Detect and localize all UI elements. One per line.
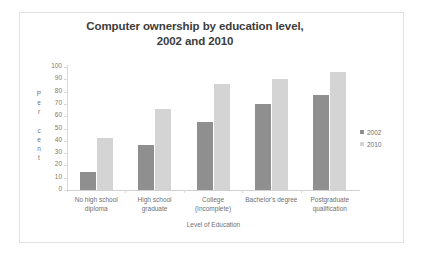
bar-group	[313, 67, 346, 190]
legend-swatch-icon	[360, 130, 364, 134]
y-axis-tick-label: 100	[51, 62, 62, 69]
bar-group	[255, 67, 288, 190]
legend-item-2002[interactable]: 2002	[360, 126, 404, 138]
bar-2010[interactable]	[214, 84, 230, 190]
bar-2010[interactable]	[97, 138, 113, 190]
legend-swatch-icon	[360, 142, 364, 146]
x-axis-tick-mark	[184, 190, 185, 193]
y-axis-tick-label: 50	[55, 124, 62, 131]
bar-2002[interactable]	[80, 172, 96, 190]
y-axis-tick-label: 60	[55, 111, 62, 118]
bar-2002[interactable]	[313, 95, 329, 190]
chart-legend: 2002 2010	[360, 126, 404, 150]
legend-label: 2010	[367, 141, 381, 148]
bar-group	[197, 67, 230, 190]
legend-item-2010[interactable]: 2010	[360, 138, 404, 150]
x-axis-tick-mark	[242, 190, 243, 193]
y-axis-tick-label: 20	[55, 160, 62, 167]
bar-2010[interactable]	[330, 72, 346, 190]
y-axis-tick-label: 80	[55, 87, 62, 94]
y-axis-tick-label: 90	[55, 74, 62, 81]
y-axis-tick-label: 70	[55, 99, 62, 106]
y-axis-tick-label: 10	[55, 173, 62, 180]
x-axis-tick-mark	[125, 190, 126, 193]
bar-2010[interactable]	[155, 109, 171, 190]
chart-title: Computer ownership by education level, 2…	[50, 19, 340, 49]
x-axis-tick-mark	[301, 190, 302, 193]
y-axis-tick-label: 0	[58, 185, 62, 192]
y-axis-ticks: 1009080706050403020100	[20, 67, 67, 190]
bar-2010[interactable]	[272, 79, 288, 190]
y-axis: 1009080706050403020100	[20, 13, 67, 244]
bar-group	[138, 67, 171, 190]
x-axis-category-label: Postgraduatequalification	[295, 195, 365, 213]
x-axis-category-label-line: (Incomplete)	[178, 204, 248, 213]
x-axis-line	[67, 190, 360, 191]
bar-2002[interactable]	[197, 122, 213, 190]
x-axis-title: Level of Education	[67, 221, 360, 228]
x-axis-category-label-line: Postgraduate	[295, 195, 365, 204]
plot-area	[67, 67, 359, 190]
legend-label: 2002	[367, 129, 381, 136]
y-axis-tick-label: 30	[55, 148, 62, 155]
y-axis-tick-label: 40	[55, 136, 62, 143]
bar-group	[80, 67, 113, 190]
chart-title-line-1: Computer ownership by education level,	[50, 19, 340, 34]
x-axis-category-label-line: qualification	[295, 204, 365, 213]
bar-2002[interactable]	[138, 145, 154, 191]
bar-2002[interactable]	[255, 104, 271, 190]
chart-frame: Computer ownership by education level, 2…	[19, 12, 404, 243]
chart-title-line-2: 2002 and 2010	[50, 34, 340, 49]
